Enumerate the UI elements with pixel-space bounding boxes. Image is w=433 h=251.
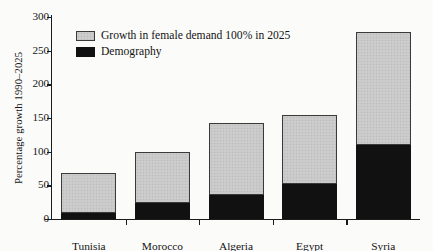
bar-tunisia [61, 173, 116, 219]
chart-figure: Percentage growth 1990–2025 050100150200… [0, 0, 433, 251]
chart-legend: Growth in female demand 100% in 2025 Dem… [76, 28, 290, 60]
legend-label-growth: Growth in female demand 100% in 2025 [101, 30, 290, 42]
y-axis-title: Percentage growth 1990–2025 [12, 17, 26, 219]
y-tick-label: 50 [38, 180, 49, 191]
growth-swatch-icon [76, 31, 95, 41]
legend-label-demography: Demography [101, 46, 162, 58]
bar-morocco [135, 152, 190, 219]
x-tick-mark [126, 219, 127, 225]
x-label-algeria: Algeria [199, 241, 273, 251]
bar-segment-demography [135, 203, 190, 219]
legend-item-growth: Growth in female demand 100% in 2025 [76, 28, 290, 43]
bar-segment-demography [356, 145, 411, 219]
x-label-syria: Syria [346, 241, 420, 251]
bar-segment-demography [209, 195, 264, 219]
bar-algeria [209, 123, 264, 219]
y-tick-label: 100 [33, 146, 49, 157]
bar-egypt [282, 115, 337, 219]
bar-segment-growth [356, 32, 411, 145]
y-tick-label: 250 [33, 45, 49, 56]
bar-syria [356, 32, 411, 219]
x-label-tunisia: Tunisia [52, 241, 126, 251]
bar-segment-growth [61, 173, 116, 213]
x-tick-mark [199, 219, 200, 225]
x-label-egypt: Egypt [273, 241, 347, 251]
bar-segment-growth [209, 123, 264, 195]
bar-segment-growth [282, 115, 337, 184]
x-tick-mark [346, 219, 347, 225]
x-label-morocco: Morocco [126, 241, 200, 251]
bar-segment-demography [282, 184, 337, 219]
bar-segment-demography [61, 213, 116, 219]
x-tick-mark [273, 219, 274, 225]
legend-item-demography: Demography [76, 44, 290, 59]
y-tick-label: 150 [33, 112, 49, 123]
bar-segment-growth [135, 152, 190, 203]
y-tick-label: 300 [33, 11, 49, 22]
y-tick-label: 200 [33, 79, 49, 90]
demography-swatch-icon [76, 47, 95, 57]
y-tick-label: 0 [44, 213, 50, 224]
